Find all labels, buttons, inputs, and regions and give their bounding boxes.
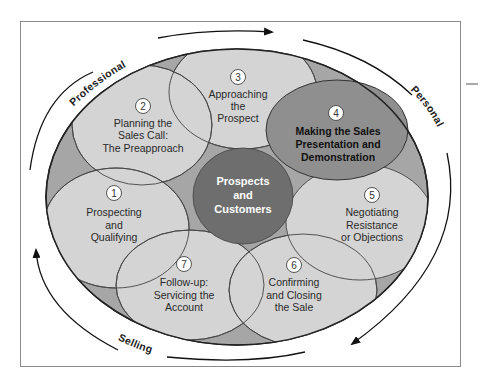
arc-label-personal: Personal — [409, 83, 447, 128]
svg-text:7: 7 — [181, 259, 187, 270]
svg-text:Customers: Customers — [214, 203, 271, 215]
svg-text:and: and — [233, 189, 253, 201]
svg-text:and: and — [105, 219, 123, 231]
arc-top — [158, 31, 272, 38]
svg-text:Servicing the: Servicing the — [154, 289, 215, 301]
svg-text:2: 2 — [140, 101, 146, 112]
svg-text:Presentation and: Presentation and — [295, 138, 380, 150]
svg-text:Sales Call:: Sales Call: — [118, 129, 168, 141]
svg-text:Account: Account — [165, 301, 203, 313]
svg-text:Making the Sales: Making the Sales — [295, 125, 380, 137]
selling-process-diagram: Professional Personal Selling Prospects … — [0, 0, 481, 389]
svg-text:Planning the: Planning the — [114, 117, 173, 129]
svg-text:3: 3 — [235, 72, 241, 83]
svg-text:or Objections: or Objections — [341, 231, 403, 243]
svg-text:The Preapproach: The Preapproach — [102, 142, 183, 154]
svg-text:5: 5 — [369, 190, 375, 201]
svg-text:6: 6 — [291, 260, 297, 271]
svg-text:Prospect: Prospect — [217, 112, 259, 124]
arc-bottom — [167, 352, 305, 360]
svg-text:Demonstration: Demonstration — [301, 151, 375, 163]
svg-text:Prospects: Prospects — [216, 175, 269, 187]
svg-text:Prospecting: Prospecting — [86, 206, 142, 218]
svg-text:the: the — [231, 100, 246, 112]
svg-text:1: 1 — [111, 188, 117, 199]
svg-text:Confirming: Confirming — [269, 276, 320, 288]
svg-text:Qualifying: Qualifying — [91, 231, 138, 243]
svg-text:the Sale: the Sale — [275, 301, 314, 313]
svg-text:Follow-up:: Follow-up: — [160, 276, 208, 288]
svg-text:Approaching: Approaching — [209, 88, 268, 100]
arc-label-selling: Selling — [117, 331, 155, 355]
svg-text:4: 4 — [333, 108, 339, 119]
svg-text:Negotiating: Negotiating — [345, 206, 398, 218]
svg-text:Resistance: Resistance — [346, 219, 398, 231]
svg-text:and Closing: and Closing — [266, 289, 322, 301]
